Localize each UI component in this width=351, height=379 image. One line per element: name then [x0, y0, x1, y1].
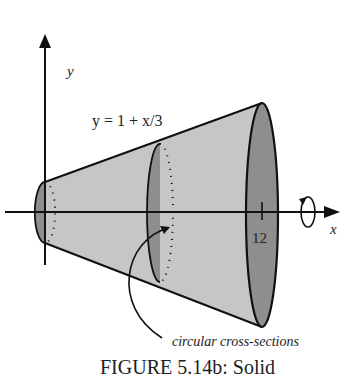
- x-axis-arrow-icon: [324, 206, 340, 218]
- tick-label: 12: [252, 230, 267, 246]
- figure-caption: FIGURE 5.14b: Solid: [100, 356, 275, 378]
- x-axis-label: x: [329, 221, 337, 237]
- equation-label: y = 1 + x/3: [92, 112, 163, 130]
- y-axis-arrow-icon: [39, 34, 51, 48]
- figure: y y = 1 + x/3 12 x circular cross-sectio…: [0, 0, 351, 379]
- solid-of-revolution-diagram: y y = 1 + x/3 12 x circular cross-sectio…: [0, 0, 351, 379]
- y-axis-label: y: [65, 63, 74, 79]
- rotation-arrowhead-icon: [299, 197, 307, 205]
- annotation-label: circular cross-sections: [172, 334, 299, 349]
